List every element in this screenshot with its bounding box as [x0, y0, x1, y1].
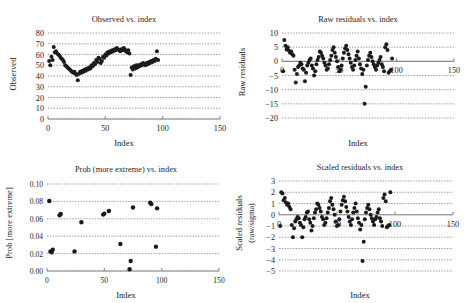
svg-text:100: 100	[156, 276, 168, 285]
svg-text:−5: −5	[266, 267, 275, 276]
x-axis-label-3: Index	[350, 290, 370, 300]
chart-panel-scaled-residuals-vs-index: Scaled residuals vs. index Scaled residu…	[232, 151, 465, 303]
svg-text:20: 20	[36, 94, 44, 103]
svg-text:0.00: 0.00	[30, 267, 43, 276]
chart-svg-observed-vs-index: Observed vs. index Observed Index 010203…	[0, 0, 232, 151]
data-points	[47, 45, 160, 82]
svg-text:5: 5	[274, 43, 278, 52]
chart-title-3: Scaled residuals vs. index	[317, 163, 404, 172]
svg-text:0.06: 0.06	[30, 215, 43, 224]
svg-text:150: 150	[448, 66, 460, 75]
x-axis-label-0: Index	[114, 138, 134, 148]
svg-text:0.02: 0.02	[30, 250, 43, 259]
svg-text:150: 150	[214, 124, 226, 133]
plot-area-3: −5−4−3−2−10123050100150	[266, 177, 459, 276]
svg-text:−5: −5	[269, 72, 278, 81]
svg-text:150: 150	[213, 276, 225, 285]
svg-text:−2: −2	[266, 233, 275, 242]
svg-text:50: 50	[101, 124, 109, 133]
chart-title-1: Raw residuals vs. index	[318, 15, 398, 24]
svg-text:10: 10	[36, 104, 44, 113]
chart-panel-raw-residuals-vs-index: Raw residuals vs. index Raw residuals In…	[232, 0, 465, 151]
x-axis-label-2: Index	[116, 290, 136, 300]
chart-svg-prob-more-extreme-vs-index: Prob (more extreme) vs. index Prob [more…	[0, 151, 232, 303]
svg-text:0: 0	[274, 57, 278, 66]
svg-text:0: 0	[45, 276, 49, 285]
y-axis-label-0: Observed	[8, 57, 18, 91]
svg-text:0: 0	[271, 211, 275, 220]
chart-title-2: Prob (more extreme) vs. index	[75, 165, 178, 174]
y-axis-label-1: Raw residuals	[237, 47, 247, 96]
svg-text:−20: −20	[265, 114, 278, 123]
plot-area-1: −20−15−10−50510050100150	[265, 29, 460, 123]
svg-text:−10: −10	[265, 86, 278, 95]
svg-text:0.08: 0.08	[30, 197, 43, 206]
svg-text:150: 150	[447, 220, 459, 229]
data-points	[47, 199, 159, 272]
chart-title-0: Observed vs. index	[92, 15, 157, 24]
svg-text:−15: −15	[265, 100, 278, 109]
svg-text:30: 30	[36, 83, 44, 92]
svg-text:60: 60	[36, 51, 44, 60]
svg-text:2: 2	[271, 188, 275, 197]
svg-text:0: 0	[46, 124, 50, 133]
y-axis-label-3-line1: Scaled residuals	[234, 195, 244, 251]
chart-svg-raw-residuals-vs-index: Raw residuals vs. index Raw residuals In…	[232, 0, 465, 151]
chart-svg-scaled-residuals-vs-index: Scaled residuals vs. index Scaled residu…	[232, 151, 465, 303]
svg-text:10: 10	[270, 29, 278, 38]
x-axis-label-1: Index	[348, 138, 368, 148]
data-points	[281, 38, 394, 106]
svg-text:70: 70	[36, 40, 44, 49]
svg-text:0.10: 0.10	[30, 180, 43, 189]
y-axis-label-3-line2: (raw/sigma)	[247, 203, 256, 243]
chart-panel-prob-more-extreme-vs-index: Prob (more extreme) vs. index Prob [more…	[0, 151, 232, 303]
svg-text:−3: −3	[266, 245, 275, 254]
figure-sheet: Observed vs. index Observed Index 010203…	[0, 0, 465, 303]
svg-text:0: 0	[40, 115, 44, 124]
svg-text:−4: −4	[266, 256, 275, 265]
svg-text:50: 50	[36, 61, 44, 70]
svg-text:100: 100	[157, 124, 169, 133]
svg-text:−1: −1	[266, 222, 275, 231]
plot-area-0: 01020304050607080050100150	[36, 29, 226, 133]
svg-text:3: 3	[271, 177, 275, 186]
svg-text:1: 1	[271, 200, 275, 209]
svg-text:80: 80	[36, 29, 44, 38]
svg-text:40: 40	[36, 72, 44, 81]
svg-text:0.04: 0.04	[30, 232, 43, 241]
plot-area-2: 0.000.020.040.060.080.10050100150	[30, 180, 225, 285]
y-axis-label-2: Prob [more extreme]	[4, 187, 14, 259]
svg-text:50: 50	[101, 276, 109, 285]
chart-panel-observed-vs-index: Observed vs. index Observed Index 010203…	[0, 0, 232, 151]
data-points	[278, 190, 392, 263]
